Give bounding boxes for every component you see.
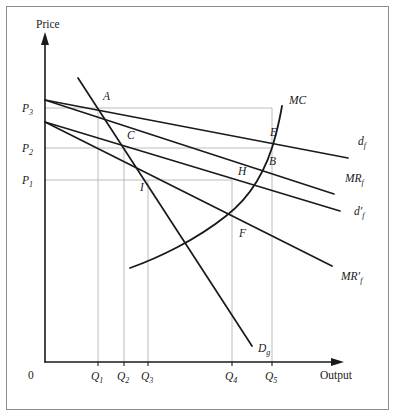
price-tick-p3: P3 — [21, 102, 33, 117]
curves-group — [45, 78, 348, 346]
y-axis-label: Price — [36, 18, 60, 30]
quantity-tick-q2: Q2 — [117, 370, 129, 385]
mrf-label: MRf — [344, 172, 366, 187]
point-label-h: H — [237, 165, 247, 177]
x-axis-label: Output — [320, 369, 353, 382]
quantity-tick-q3: Q3 — [141, 370, 153, 385]
point-label-a: A — [102, 90, 111, 102]
origin-label: 0 — [28, 369, 34, 381]
price-tick-p1: P1 — [21, 174, 33, 189]
mrf-prime-label: MR′f — [340, 270, 364, 285]
quantity-tick-labels: Q1 Q2 Q3 Q4 Q5 — [91, 370, 277, 385]
curve-d-f-prime — [45, 122, 340, 211]
point-label-c: C — [127, 129, 135, 141]
point-label-b: B — [269, 155, 276, 167]
point-label-i: I — [139, 181, 145, 193]
y-axis-arrow — [41, 32, 49, 45]
price-tick-p2: P2 — [21, 142, 33, 157]
x-axis-arrow — [331, 358, 344, 366]
point-label-e: E — [269, 126, 277, 138]
df-prime-label: d′f — [354, 205, 366, 220]
quantity-tick-q4: Q4 — [225, 370, 237, 385]
df-label: df — [358, 135, 368, 150]
mc-label: MC — [288, 94, 307, 106]
curve-mr-f-prime — [45, 122, 332, 266]
quantity-tick-q5: Q5 — [265, 370, 277, 385]
quantity-tick-q1: Q1 — [91, 370, 103, 385]
point-label-f: F — [238, 227, 247, 239]
figure-container: Price Output 0 P3 P2 P1 Q1 Q2 Q3 Q4 Q5 A… — [0, 0, 395, 416]
dg-label: Dg — [257, 342, 270, 357]
economics-diagram: Price Output 0 P3 P2 P1 Q1 Q2 Q3 Q4 Q5 A… — [0, 0, 395, 416]
price-tick-labels: P3 P2 P1 — [21, 102, 33, 189]
